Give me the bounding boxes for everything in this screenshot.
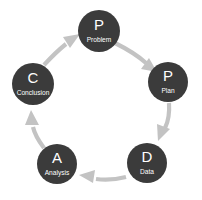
cycle-diagram-canvas: P Problem P Plan D Data A Analysis [0,0,202,200]
node-problem-letter: P [94,16,104,33]
arrow-problem-to-plan [115,43,157,72]
node-analysis-label: Analysis [45,169,70,177]
arrow-conclusion-to-problem-shaft [44,44,66,65]
node-conclusion-letter: C [28,69,39,86]
arrow-problem-to-plan-shaft [115,43,146,63]
arrow-analysis-to-conclusion-shaft [33,127,44,148]
node-plan-letter: P [163,67,173,84]
node-data-label: Data [140,168,154,175]
arrow-data-to-analysis-head [79,170,95,183]
node-group: P Problem P Plan D Data A Analysis [12,10,188,184]
arrow-data-to-analysis [79,170,126,183]
arrow-analysis-to-conclusion [25,110,44,148]
node-problem-label: Problem [87,36,112,43]
node-data[interactable]: D Data [127,143,167,183]
node-problem[interactable]: P Problem [78,10,120,52]
arrow-data-to-analysis-shaft [96,177,126,180]
arrow-plan-to-data [157,103,170,141]
node-analysis[interactable]: A Analysis [37,144,77,184]
arrow-plan-to-data-shaft [165,103,169,128]
arrow-analysis-to-conclusion-head [25,110,39,125]
node-conclusion[interactable]: C Conclusion [12,63,54,105]
node-plan[interactable]: P Plan [148,62,188,102]
node-analysis-letter: A [52,149,62,166]
arrow-conclusion-to-problem [44,34,80,65]
ppdac-cycle-diagram: P Problem P Plan D Data A Analysis [0,0,202,200]
arrow-plan-to-data-head [157,124,170,141]
node-plan-label: Plan [161,87,175,94]
node-conclusion-label: Conclusion [17,89,50,96]
node-data-letter: D [142,148,153,165]
